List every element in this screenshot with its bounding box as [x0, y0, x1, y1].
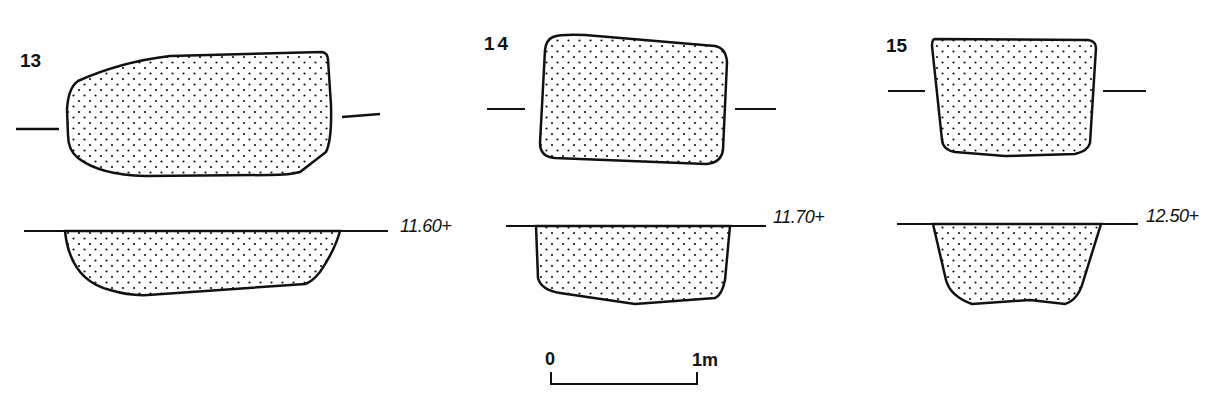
- feature-15-label: 15: [886, 35, 907, 57]
- feature-13-plan: [16, 52, 380, 176]
- feature-15-section: [897, 224, 1138, 304]
- scale-bar: [551, 372, 697, 384]
- feature-13-elevation: 11.60+: [400, 216, 451, 237]
- scale-start-label: 0: [545, 349, 555, 370]
- feature-14-elevation: 11.70+: [773, 207, 824, 228]
- feature-14-section: [506, 226, 766, 304]
- feature-15-plan: [888, 39, 1146, 156]
- feature-14-label: 14: [484, 33, 511, 55]
- feature-drawings: [0, 0, 1232, 410]
- feature-13-section: [24, 231, 388, 295]
- scale-end-label: 1m: [692, 350, 718, 371]
- feature-15-elevation: 12.50+: [1146, 206, 1199, 227]
- feature-13-label: 13: [20, 50, 41, 72]
- feature-14-plan: [487, 35, 776, 164]
